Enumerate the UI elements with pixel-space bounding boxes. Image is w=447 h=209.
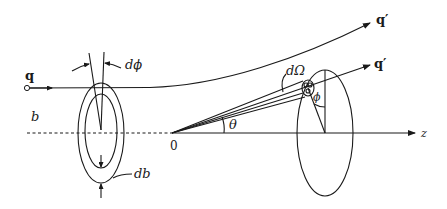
label-dphi: dϕ	[125, 57, 142, 72]
label-origin: 0	[170, 139, 178, 153]
label-db: db	[134, 166, 151, 181]
label-dOmega: dΩ	[286, 63, 305, 78]
label-q-prime-upper: q′	[376, 12, 389, 27]
source-point	[24, 85, 29, 90]
label-theta: θ	[229, 117, 237, 132]
scattering-diagram: q b dϕ db 0 θ dΩ ϕ q′ q′ z	[0, 0, 447, 209]
label-q: q	[25, 68, 34, 83]
label-q-prime-lower: q′	[374, 56, 387, 71]
label-b: b	[31, 109, 39, 124]
dphi-arrow-left	[72, 64, 89, 71]
dphi-arrow-right	[105, 63, 121, 68]
scattered-direction	[172, 65, 370, 133]
incoming-trajectory	[30, 23, 370, 88]
label-z: z	[420, 127, 427, 140]
label-phi: ϕ	[313, 91, 321, 104]
dphi-line-left	[89, 53, 101, 130]
cone-line-2	[172, 93, 303, 133]
cone-line-3	[172, 97, 305, 133]
db-leader	[113, 174, 132, 178]
cone-line-1	[172, 81, 303, 133]
dphi-line-right	[101, 52, 104, 130]
phi-arc	[314, 104, 325, 107]
